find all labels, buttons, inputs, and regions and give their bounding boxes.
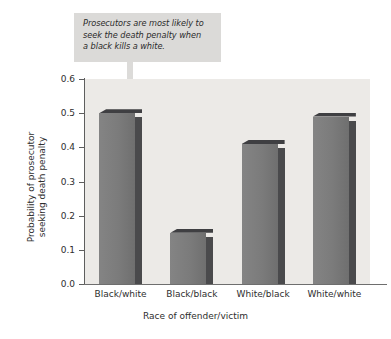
x-axis-line xyxy=(84,284,387,285)
y-axis-tick-label-wrap: 0.2 xyxy=(46,216,75,217)
bar-side-face xyxy=(135,117,142,284)
y-axis-tick xyxy=(79,216,84,217)
x-axis-title: Race of offender/victim xyxy=(0,311,391,321)
y-axis-tick-label: 0.1 xyxy=(46,245,75,255)
y-axis-tick-label-wrap: 0.5 xyxy=(46,113,75,114)
bar xyxy=(99,109,142,284)
y-axis-tick xyxy=(79,284,84,285)
bar-top-face xyxy=(242,140,285,144)
x-axis-tick-label: Black/black xyxy=(166,289,217,299)
y-axis-tick-label: 0.6 xyxy=(46,74,75,84)
y-axis-tick-label: 0.0 xyxy=(46,279,75,289)
y-axis-tick xyxy=(79,250,84,251)
bar-top-face xyxy=(99,109,142,113)
y-axis-title: Probability of prosecutor seeking death … xyxy=(26,87,48,287)
y-axis-tick-label-wrap: 0.4 xyxy=(46,147,75,148)
y-axis-tick xyxy=(79,182,84,183)
bar xyxy=(242,140,285,284)
bar-side-face xyxy=(349,121,356,284)
bar xyxy=(170,229,213,284)
bar-front-face xyxy=(99,113,135,284)
annotation-callout: Prosecutors are most likely to seek the … xyxy=(74,13,221,62)
y-axis-tick-label: 0.3 xyxy=(46,177,75,187)
x-axis-tick-label: Black/white xyxy=(95,289,147,299)
bar-front-face xyxy=(313,117,349,284)
bar-side-face xyxy=(278,148,285,284)
bar-front-face xyxy=(242,144,278,284)
y-axis-tick-label-wrap: 0.6 xyxy=(46,79,75,80)
y-axis-tick xyxy=(79,79,84,80)
bar-top-face xyxy=(170,229,213,233)
y-axis-tick xyxy=(79,113,84,114)
y-axis-tick-label-wrap: 0.1 xyxy=(46,250,75,251)
y-axis-tick xyxy=(79,147,84,148)
bar-side-face xyxy=(206,237,213,284)
x-axis-tick-label: White/black xyxy=(237,289,290,299)
bar xyxy=(313,113,356,284)
bar-front-face xyxy=(170,233,206,284)
y-axis-tick-label: 0.4 xyxy=(46,142,75,152)
y-axis-line xyxy=(84,78,85,285)
annotation-callout-text: Prosecutors are most likely to seek the … xyxy=(83,18,214,53)
y-axis-tick-label-wrap: 0.0 xyxy=(46,284,75,285)
y-axis-tick-label: 0.5 xyxy=(46,108,75,118)
bar-chart-figure: Prosecutors are most likely to seek the … xyxy=(0,0,391,339)
y-axis-tick-label: 0.2 xyxy=(46,211,75,221)
x-axis-tick-label: White/white xyxy=(307,289,361,299)
bar-top-face xyxy=(313,113,356,117)
y-axis-tick-label-wrap: 0.3 xyxy=(46,182,75,183)
